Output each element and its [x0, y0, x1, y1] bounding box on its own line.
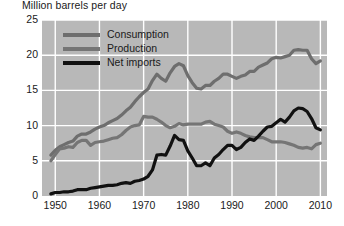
chart-legend: ConsumptionProductionNet imports: [63, 28, 169, 70]
legend-item: Production: [63, 42, 169, 55]
legend-label: Production: [107, 43, 157, 54]
chart-figure: Million barrels per day 2520151050 19501…: [0, 0, 344, 226]
x-tick-label: 2010: [309, 200, 332, 211]
legend-item: Net imports: [63, 56, 169, 69]
legend-swatch: [63, 47, 100, 51]
legend-swatch: [63, 61, 100, 65]
x-tick-label: 1970: [132, 200, 155, 211]
x-tick-label: 1960: [88, 200, 111, 211]
series-line-net-imports: [51, 108, 321, 194]
series-line-production: [51, 116, 321, 160]
x-tick-label: 1950: [44, 200, 67, 211]
legend-item: Consumption: [63, 28, 169, 41]
x-tick-label: 2000: [264, 200, 287, 211]
x-tick-label: 1980: [176, 200, 199, 211]
x-tick-label: 1990: [220, 200, 243, 211]
legend-label: Consumption: [107, 29, 169, 40]
legend-swatch: [63, 33, 100, 37]
legend-label: Net imports: [107, 57, 161, 68]
